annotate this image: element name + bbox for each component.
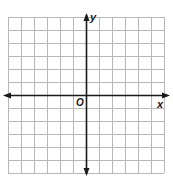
origin-label: O (76, 98, 84, 108)
coordinate-plane (0, 0, 173, 179)
y-axis (84, 13, 90, 176)
x-axis-right-arrow-icon (162, 93, 170, 99)
x-axis-left-arrow-icon (3, 93, 11, 99)
y-axis-down-arrow-icon (84, 168, 90, 176)
y-axis-label: y (90, 12, 96, 23)
x-axis-label: x (157, 99, 163, 110)
